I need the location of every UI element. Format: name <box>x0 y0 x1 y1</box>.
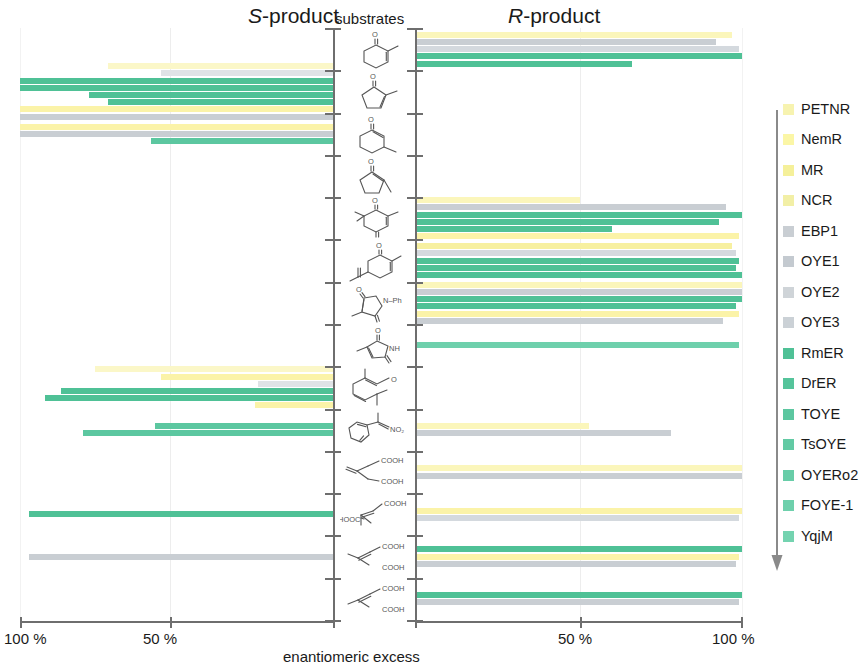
svg-text:O: O <box>368 115 374 124</box>
substrate-structure-3: O <box>338 113 416 155</box>
legend-item-label: TsOYE <box>801 437 846 452</box>
legend-item-rmer[interactable]: RmER <box>783 344 844 362</box>
axis-title: enantiomeric excess <box>283 648 420 665</box>
legend-item-ncr[interactable]: NCR <box>783 192 832 210</box>
svg-text:O: O <box>368 157 374 166</box>
legend-item-tsoye[interactable]: TsOYE <box>783 436 846 454</box>
legend-swatch-icon <box>783 134 794 145</box>
axis-tick-label-right-50: 50 % <box>558 630 592 647</box>
svg-text:COOH: COOH <box>382 542 405 551</box>
svg-text:NO₂: NO₂ <box>390 425 404 434</box>
gridline-right-50 <box>580 28 581 620</box>
legend-item-label: OYE2 <box>801 285 840 300</box>
substrate-structure-4: O <box>338 155 416 197</box>
legend-item-ebp1[interactable]: EBP1 <box>783 222 838 240</box>
bar-substrate9-left-petnr <box>95 366 333 372</box>
bar-substrate6-right-drer <box>417 265 736 271</box>
svg-text:COOH: COOH <box>384 499 407 508</box>
bar-substrate6-right-oye1 <box>417 250 736 256</box>
legend-item-label: NCR <box>801 193 832 208</box>
right-panel-title: R-product <box>508 4 600 28</box>
bar-substrate5-right-toye <box>417 226 612 232</box>
bar-substrate2-left-tsoye <box>108 99 333 105</box>
legend-swatch-icon <box>783 195 794 206</box>
axis-end-right-inner <box>415 617 417 628</box>
right-panel-title-suffix: -product <box>523 4 600 27</box>
svg-text:COOH: COOH <box>381 477 404 486</box>
bar-substrate5-right-rmer <box>417 212 742 218</box>
svg-text:O: O <box>391 375 397 384</box>
legend-item-nemr[interactable]: NemR <box>783 131 842 149</box>
svg-text:COOH: COOH <box>382 584 405 593</box>
legend-item-oye3[interactable]: OYE3 <box>783 314 840 332</box>
bar-substrate1-right-ebp1 <box>417 39 716 45</box>
legend-item-oye2[interactable]: OYE2 <box>783 283 840 301</box>
legend-item-petnr[interactable]: PETNR <box>783 100 850 118</box>
bar-substrate5-right-nemr <box>417 233 739 239</box>
axis-end-right-outer <box>741 617 743 628</box>
left-panel-title-descriptor: S <box>248 4 262 27</box>
legend-item-yqjm[interactable]: YqjM <box>783 527 833 545</box>
bar-substrate7-right-petnr <box>417 282 742 288</box>
bar-substrate9-left-oye1 <box>258 381 333 387</box>
substrate-structure-5: O O <box>338 197 416 239</box>
bar-substrate10-left-tsoye <box>83 430 333 436</box>
bar-substrate5-right-drer <box>417 219 719 225</box>
right-panel-title-descriptor: R <box>508 4 523 27</box>
substrate-structure-2: O <box>338 70 416 112</box>
legend-swatch-icon <box>783 531 794 542</box>
svg-text:COOH: COOH <box>382 605 405 614</box>
bar-substrate1-right-rmer <box>417 53 742 59</box>
legend-swatch-icon <box>783 500 794 511</box>
bar-substrate7-right-nemr <box>417 311 739 317</box>
bar-substrate7-right-ebp1 <box>417 289 742 295</box>
substrate-structure-column: O O O O O <box>338 28 416 620</box>
legend-swatch-icon <box>783 378 794 389</box>
substrate-structure-10: NO₂ <box>338 409 416 451</box>
bar-substrate1-right-drer <box>417 61 632 67</box>
bar-substrate3-left-oye3 <box>20 131 333 137</box>
bar-substrate6-right-mr <box>417 243 732 249</box>
chart-figure: S-product substrates R-product O O O <box>0 0 863 667</box>
left-panel-title: S-product <box>248 4 339 28</box>
legend-item-mr[interactable]: MR <box>783 161 824 179</box>
legend-item-label: OYE1 <box>801 254 840 269</box>
substrate-structure-14: COOH COOH <box>338 578 416 620</box>
bar-substrate5-right-ebp1 <box>417 204 726 210</box>
legend-swatch-icon <box>783 317 794 328</box>
substrate-structure-8: O NH O <box>338 324 416 366</box>
bar-substrate11-right-oye1 <box>417 473 742 479</box>
legend-item-oye1[interactable]: OYE1 <box>783 253 840 271</box>
bar-substrate10-right-petnr <box>417 423 589 429</box>
legend-swatch-icon <box>783 287 794 298</box>
legend-swatch-icon <box>783 226 794 237</box>
legend-item-label: OYE3 <box>801 315 840 330</box>
legend-item-toye[interactable]: TOYE <box>783 405 840 423</box>
bar-substrate14-right-yqjm <box>417 592 742 598</box>
substrate-structure-9: O <box>338 366 416 408</box>
bar-substrate14-right-oye1 <box>417 599 739 605</box>
bar-substrate6-right-toye <box>417 272 742 278</box>
bar-substrate2-left-toye <box>89 92 333 98</box>
bar-substrate1-right-petnr <box>417 32 732 38</box>
bar-substrate5-right-petnr <box>417 197 580 203</box>
bar-substrate2-left-nemr <box>20 106 333 112</box>
svg-text:O: O <box>375 326 381 335</box>
gridline-right-100 <box>742 28 743 620</box>
bar-substrate9-left-rmer <box>61 388 333 394</box>
legend-item-label: RmER <box>801 346 844 361</box>
center-column-title: substrates <box>335 10 404 27</box>
legend-item-label: MR <box>801 163 824 178</box>
bar-substrate2-left-rmer <box>20 78 333 84</box>
svg-text:NH: NH <box>389 344 400 353</box>
svg-text:O: O <box>370 72 376 81</box>
bar-substrate2-left-oye1 <box>161 70 333 76</box>
legend-item-drer[interactable]: DrER <box>783 375 836 393</box>
bar-substrate2-left-drer <box>20 85 333 91</box>
legend-item-oyero2[interactable]: OYERo2 <box>783 466 858 484</box>
legend-item-label: DrER <box>801 376 836 391</box>
svg-text:O: O <box>372 30 378 39</box>
axis-tick-label-right-100: 100 % <box>712 630 755 647</box>
bottom-axis-left-line <box>20 621 335 623</box>
legend-item-foye-1[interactable]: FOYE-1 <box>783 497 853 515</box>
